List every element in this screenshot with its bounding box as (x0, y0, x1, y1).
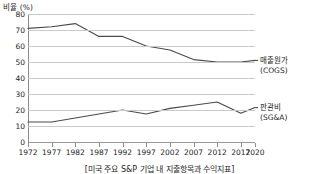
x-tick-mark-2007 (194, 143, 195, 147)
y-tick-label-20: 20 (1, 106, 25, 115)
legend-sga-label: 판관비 (260, 103, 281, 112)
x-tick-label-2020: 2020 (238, 148, 272, 157)
legend-item-sga: 판관비 (SG&A) (260, 103, 287, 123)
x-tick-mark-1972 (28, 143, 29, 147)
x-tick-mark-2012 (217, 143, 218, 147)
x-tick-mark-1982 (75, 143, 76, 147)
plot-area (28, 14, 255, 142)
figure-caption: [미국 주요 S&P 기업 내 지출항목과 수익지표] (0, 163, 319, 174)
x-tick-mark-1992 (123, 143, 124, 147)
gridline-40 (28, 78, 255, 79)
legend-cogs-label: 매출원가 (260, 56, 288, 65)
gridline-30 (28, 94, 255, 95)
x-tick-mark-2020 (255, 143, 256, 147)
y-tick-label-60: 60 (1, 42, 25, 51)
gridline-20 (28, 110, 255, 111)
y-tick-label-80: 80 (1, 10, 25, 19)
x-tick-mark-1987 (99, 143, 100, 147)
series-line-sga (28, 102, 255, 122)
gridline-60 (28, 46, 255, 47)
x-tick-mark-1977 (52, 143, 53, 147)
y-tick-label-30: 30 (1, 90, 25, 99)
legend-sga-sublabel: (SG&A) (260, 113, 287, 123)
gridline-50 (28, 62, 255, 63)
y-tick-label-40: 40 (1, 74, 25, 83)
x-tick-mark-1997 (146, 143, 147, 147)
legend-cogs-sublabel: (COGS) (260, 66, 288, 76)
gridline-80 (28, 14, 255, 15)
y-tick-label-70: 70 (1, 26, 25, 35)
y-tick-label-0: 0 (1, 138, 25, 147)
x-tick-mark-2002 (170, 143, 171, 147)
gridline-10 (28, 126, 255, 127)
chart-figure: 비율 (%) 01020304050607080 197219771982198… (0, 0, 319, 174)
gridline-70 (28, 30, 255, 31)
y-tick-label-10: 10 (1, 122, 25, 131)
legend-item-cogs: 매출원가 (COGS) (260, 56, 288, 76)
x-axis-tick-labels: 1972197719821987199219972002200720122017… (28, 148, 255, 160)
y-axis-tick-labels: 01020304050607080 (0, 14, 25, 142)
x-tick-mark-2017 (241, 143, 242, 147)
y-tick-label-50: 50 (1, 58, 25, 67)
